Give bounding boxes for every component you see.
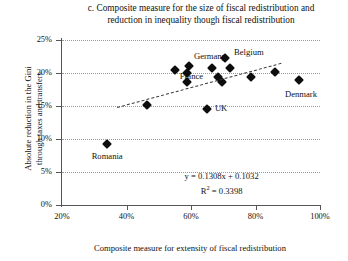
data-point bbox=[207, 63, 217, 73]
data-point bbox=[102, 139, 112, 149]
y-tick-label: 15% bbox=[12, 101, 52, 110]
x-tick bbox=[127, 205, 128, 210]
gridline bbox=[62, 40, 320, 41]
data-point bbox=[270, 67, 280, 77]
y-tick-label: 0% bbox=[12, 200, 52, 209]
y-tick-label: 10% bbox=[12, 134, 52, 143]
data-point-label: Romania bbox=[92, 151, 123, 161]
chart-title-line-2: reduction in inequality though fiscal re… bbox=[58, 14, 344, 26]
x-tick-label: 100% bbox=[298, 212, 342, 221]
x-tick-label: 20% bbox=[40, 212, 84, 221]
regression-annotation: y = 0.1308x + 0.1032 R2 = 0.3398 bbox=[185, 171, 259, 197]
data-point bbox=[220, 54, 230, 64]
y-axis-title-line-1: Absolute reduction in the Gini bbox=[23, 33, 34, 205]
y-tick bbox=[56, 172, 62, 173]
chart-figure: c. Composite measure for the size of fis… bbox=[0, 0, 348, 261]
x-tick bbox=[320, 205, 321, 210]
data-point-label: Denmark bbox=[285, 89, 317, 99]
y-axis-title: Absolute reduction in the Gini through t… bbox=[23, 33, 44, 205]
x-tick bbox=[191, 205, 192, 210]
x-tick-label: 40% bbox=[105, 212, 149, 221]
data-point bbox=[294, 75, 304, 85]
y-axis-title-line-2: through taxes and transfers bbox=[33, 33, 44, 205]
x-tick-label: 60% bbox=[169, 212, 213, 221]
x-axis-title: Composite measure for extensity of fisca… bbox=[40, 243, 340, 253]
data-point bbox=[225, 63, 235, 73]
y-tick-label: 25% bbox=[12, 35, 52, 44]
y-tick bbox=[56, 40, 62, 41]
data-point-label: France bbox=[180, 71, 203, 81]
gridline bbox=[62, 139, 320, 140]
trendline bbox=[117, 62, 282, 107]
x-tick-label: 80% bbox=[234, 212, 278, 221]
y-tick-label: 5% bbox=[12, 167, 52, 176]
data-point-label: UK bbox=[215, 103, 227, 113]
data-point bbox=[143, 100, 153, 110]
y-tick-label: 20% bbox=[12, 68, 52, 77]
y-tick bbox=[56, 205, 62, 206]
y-axis-line bbox=[61, 38, 62, 207]
x-tick bbox=[256, 205, 257, 210]
r-squared: R2 = 0.3398 bbox=[185, 182, 259, 197]
r-squared-value: = 0.3398 bbox=[210, 186, 243, 196]
chart-title: c. Composite measure for the size of fis… bbox=[58, 2, 344, 26]
gridline bbox=[62, 106, 320, 107]
regression-equation: y = 0.1308x + 0.1032 bbox=[185, 171, 259, 182]
chart-title-line-1: c. Composite measure for the size of fis… bbox=[58, 2, 344, 14]
data-point-label: Belgium bbox=[234, 47, 264, 57]
y-tick bbox=[56, 106, 62, 107]
y-tick bbox=[56, 73, 62, 74]
y-tick bbox=[56, 139, 62, 140]
